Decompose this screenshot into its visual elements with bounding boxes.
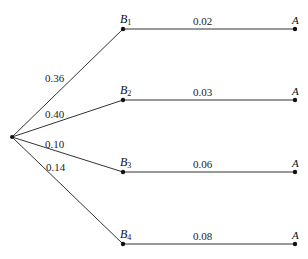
node-b3: B3	[120, 156, 131, 170]
prob-a-given-b2: 0.03	[193, 87, 212, 98]
node-a2: A	[292, 86, 299, 97]
prob-a-given-b1: 0.02	[193, 16, 212, 27]
prob-a-given-b3: 0.06	[193, 159, 212, 170]
node-b1: B1	[120, 13, 131, 27]
prob-b3: 0.10	[45, 139, 64, 150]
node-b2: B2	[120, 84, 131, 98]
node-a4: A	[292, 230, 299, 241]
tree-lines	[0, 0, 308, 259]
node-b4: B4	[120, 228, 131, 242]
node-a1: A	[292, 15, 299, 26]
node-a3: A	[292, 158, 299, 169]
prob-b2: 0.40	[45, 109, 64, 120]
prob-b1: 0.36	[45, 73, 64, 84]
prob-b4: 0.14	[46, 162, 65, 173]
prob-a-given-b4: 0.08	[193, 231, 212, 242]
